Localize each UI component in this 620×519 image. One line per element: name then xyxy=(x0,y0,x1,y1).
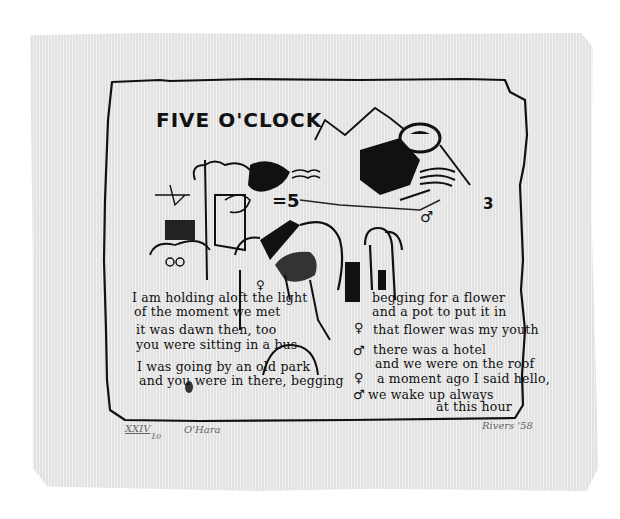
male-symbol-mark: ♂ xyxy=(420,208,433,226)
male-symbol-icon: ♂ xyxy=(353,343,365,358)
female-symbol-icon: ♀ xyxy=(354,370,364,385)
poem-left-line: you were sitting in a bus xyxy=(136,337,297,352)
poem-left-line: I was going by an old park xyxy=(137,359,310,374)
poem-right-line: at this hour xyxy=(436,399,512,414)
poem-left-line: of the moment we met xyxy=(134,304,281,319)
poem-right-line: that flower was my youth xyxy=(373,322,539,337)
number-five-mark: =5 xyxy=(272,190,300,211)
poem-right-line: a moment ago I said hello, xyxy=(377,371,550,386)
poem-right-line: begging for a flower xyxy=(372,290,505,305)
poem-left-line: it was dawn then, too xyxy=(136,322,276,337)
male-symbol-icon: ♂ xyxy=(353,387,365,402)
poem-right-line: and we were on the roof xyxy=(375,356,534,371)
poem-right-line: and a pot to put it in xyxy=(372,304,506,319)
artwork-title: FIVE O'CLOCK xyxy=(156,108,322,132)
female-symbol-icon: ♀ xyxy=(354,320,364,335)
poem-left-line: I am holding aloft the light xyxy=(132,290,308,305)
edition-number: XXIV xyxy=(125,423,150,434)
number-three-mark: 3 xyxy=(483,195,493,213)
poet-inscription: O'Hara xyxy=(184,424,220,435)
plate-drawing xyxy=(0,0,620,519)
edition-total: 10 xyxy=(151,432,161,441)
poem-right-line: there was a hotel xyxy=(373,342,486,357)
poem-left-line: and you were in there, begging xyxy=(139,373,344,388)
artist-signature: Rivers '58 xyxy=(482,420,533,431)
